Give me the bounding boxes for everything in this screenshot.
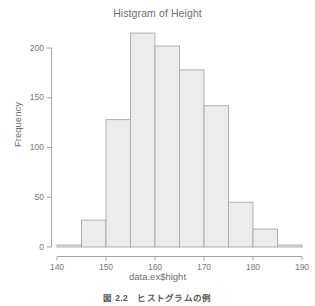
histogram-bar bbox=[155, 46, 180, 247]
histogram-svg bbox=[0, 0, 315, 306]
histogram-bar bbox=[57, 245, 82, 247]
histogram-bar bbox=[106, 120, 131, 247]
x-axis-label: data.ex$hight bbox=[0, 271, 315, 282]
x-tick-label: 180 bbox=[238, 262, 268, 272]
y-tick-label: 50 bbox=[22, 192, 44, 202]
x-tick-label: 150 bbox=[91, 262, 121, 272]
histogram-bar bbox=[278, 245, 303, 247]
histogram-bar bbox=[253, 229, 278, 247]
y-axis-label: Frequency bbox=[12, 80, 23, 170]
x-tick-label: 140 bbox=[42, 262, 72, 272]
y-tick-label: 150 bbox=[22, 92, 44, 102]
histogram-bars bbox=[57, 33, 302, 247]
figure-caption: 図 2.2 ヒストグラムの例 bbox=[0, 291, 315, 306]
histogram-bar bbox=[82, 220, 107, 247]
histogram-bar bbox=[180, 70, 205, 247]
figure-container: Histgram of Height 050100150200 14015016… bbox=[0, 0, 315, 306]
plot-area: 050100150200 140150160170180190 Frequenc… bbox=[0, 0, 315, 306]
histogram-bar bbox=[131, 33, 156, 247]
histogram-bar bbox=[204, 106, 229, 247]
x-tick-label: 170 bbox=[189, 262, 219, 272]
x-tick-label: 160 bbox=[140, 262, 170, 272]
y-tick-label: 200 bbox=[22, 43, 44, 53]
x-tick-label: 190 bbox=[287, 262, 315, 272]
histogram-bar bbox=[229, 202, 254, 247]
y-tick-label: 0 bbox=[22, 242, 44, 252]
y-tick-label: 100 bbox=[22, 142, 44, 152]
